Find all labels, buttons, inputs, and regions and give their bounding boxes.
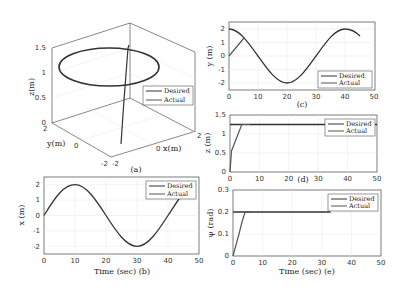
svg-text:0.5: 0.5 <box>215 149 226 157</box>
svg-text:-2: -2 <box>218 79 225 87</box>
legend-e: Desired Actual <box>328 194 378 211</box>
caption-a: (a) <box>130 165 141 174</box>
svg-text:-2: -2 <box>112 160 119 168</box>
svg-text:10: 10 <box>255 175 264 183</box>
caption-d: (d) <box>297 175 308 184</box>
legend-a: Desired Actual <box>143 86 193 105</box>
svg-text:50: 50 <box>377 259 386 267</box>
legend-c: Desired Actual <box>318 71 372 88</box>
svg-text:0.5: 0.5 <box>35 94 46 102</box>
svg-text:40: 40 <box>347 259 356 267</box>
svg-text:0: 0 <box>36 212 40 220</box>
ylabel-d: z (m) <box>203 133 212 154</box>
svg-text:0: 0 <box>225 252 229 260</box>
svg-text:0.1: 0.1 <box>218 230 229 238</box>
svg-text:20: 20 <box>102 257 111 265</box>
svg-text:30: 30 <box>312 93 321 101</box>
svg-text:1: 1 <box>221 39 225 47</box>
svg-text:20: 20 <box>288 259 297 267</box>
svg-text:1: 1 <box>36 196 40 204</box>
svg-text:50: 50 <box>370 93 379 101</box>
svg-text:-1: -1 <box>33 227 40 235</box>
svg-text:50: 50 <box>373 175 382 183</box>
figure: 1.5 1 0.5 0 z(m) 2 0 -2 y(m) -2 0 2 x(m)… <box>0 0 404 290</box>
panel-e-psi-plot: 0.30.2 0.10 01020 304050 ψ (rad) Time (s… <box>206 186 385 276</box>
svg-text:20: 20 <box>283 93 292 101</box>
panel-d-z-plot: 1.51 0.50 01020 304050 z (m) (d) Desired… <box>203 111 381 184</box>
svg-text:1: 1 <box>42 69 46 77</box>
panel-b-x-plot: 210 -1-2 01020 304050 x (m) Time (sec) (… <box>17 177 203 276</box>
svg-text:40: 40 <box>343 175 352 183</box>
svg-text:40: 40 <box>341 93 350 101</box>
desired-circle <box>59 48 159 86</box>
svg-text:20: 20 <box>284 175 293 183</box>
svg-text:30: 30 <box>314 175 323 183</box>
ylabel-e: ψ (rad) <box>206 209 215 238</box>
svg-text:-2: -2 <box>33 243 40 251</box>
svg-text:40: 40 <box>164 257 173 265</box>
svg-text:2: 2 <box>43 125 47 133</box>
svg-text:0: 0 <box>222 168 226 176</box>
svg-text:2: 2 <box>36 181 40 189</box>
svg-text:-1: -1 <box>218 66 225 74</box>
legend-d: Desired Actual <box>325 119 375 136</box>
ylabel-c: y (m) <box>205 46 214 68</box>
svg-text:Desired: Desired <box>164 87 190 95</box>
legend-b: Desired Actual <box>146 181 196 199</box>
svg-text:10: 10 <box>254 93 263 101</box>
svg-text:Actual: Actual <box>166 190 188 198</box>
svg-text:0.2: 0.2 <box>218 208 229 216</box>
y-axis-label: y(m) <box>46 139 65 148</box>
svg-text:1: 1 <box>222 130 226 138</box>
svg-text:30: 30 <box>317 259 326 267</box>
caption-e: Time (sec) (e) <box>279 267 335 276</box>
svg-text:0: 0 <box>228 175 232 183</box>
svg-text:10: 10 <box>258 259 267 267</box>
svg-text:0: 0 <box>221 52 225 60</box>
svg-text:Actual: Actual <box>163 96 185 104</box>
svg-text:2: 2 <box>221 25 225 33</box>
svg-text:0: 0 <box>231 259 235 267</box>
svg-text:Actual: Actual <box>348 202 370 210</box>
panel-c-y-plot: 210 -1-2 01020 304050 y (m) (c) Desired … <box>205 22 378 109</box>
svg-text:10: 10 <box>71 257 80 265</box>
svg-text:50: 50 <box>195 257 204 265</box>
x-axis-label: x(m) <box>163 144 181 153</box>
svg-text:0: 0 <box>42 257 46 265</box>
panel-a-3d-plot: 1.5 1 0.5 0 z(m) 2 0 -2 y(m) -2 0 2 x(m)… <box>27 23 201 174</box>
svg-text:2: 2 <box>197 132 201 140</box>
svg-text:Actual: Actual <box>338 79 360 87</box>
svg-text:-2: -2 <box>101 160 108 168</box>
svg-text:0: 0 <box>74 142 78 150</box>
ylabel-b: x (m) <box>17 205 26 226</box>
caption-b: Time (sec) (b) <box>94 267 150 276</box>
svg-text:0: 0 <box>156 145 160 153</box>
svg-text:Desired: Desired <box>167 182 193 190</box>
caption-c: (c) <box>297 100 308 109</box>
svg-text:0.3: 0.3 <box>218 186 229 194</box>
svg-text:0: 0 <box>227 93 231 101</box>
svg-text:1.5: 1.5 <box>215 111 226 119</box>
svg-text:1.5: 1.5 <box>35 44 46 52</box>
svg-text:30: 30 <box>133 257 142 265</box>
svg-text:Actual: Actual <box>345 127 367 135</box>
z-axis-label: z(m) <box>27 78 36 96</box>
